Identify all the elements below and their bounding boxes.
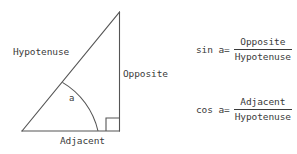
sine-numerator: Opposite [239,36,286,48]
angle-label: a [69,93,74,104]
hypotenuse-side-line [22,12,120,131]
sine-formula-lhs: sin a= [196,44,234,55]
cosine-formula-lhs: cos a= [196,104,234,115]
sine-fraction: Opposite Hypotenuse [234,36,292,63]
angle-arc-icon [62,82,98,131]
sine-fraction-bar [234,49,292,50]
cosine-fraction: Adjacent Hypotenuse [234,96,292,123]
right-angle-marker-icon [106,118,119,131]
trigonometry-figure: Hypotenuse Opposite Adjacent a sin a= Op… [0,0,297,154]
cosine-denominator: Hypotenuse [234,111,292,123]
hypotenuse-label: Hypotenuse [13,46,69,57]
cosine-numerator: Adjacent [239,96,286,108]
sine-denominator: Hypotenuse [234,51,292,63]
cosine-fraction-bar [234,109,292,110]
opposite-label: Opposite [123,68,168,79]
adjacent-label: Adjacent [60,135,105,146]
sine-formula: sin a= Opposite Hypotenuse [196,36,292,63]
cosine-formula: cos a= Adjacent Hypotenuse [196,96,292,123]
